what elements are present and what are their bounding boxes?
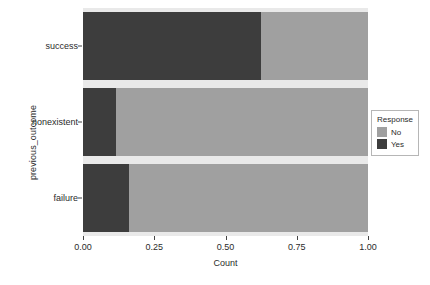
legend-item-no[interactable]: No [377,127,413,137]
y-tick-label-failure: failure [16,193,78,203]
bar-segment-nonexistent-no [116,88,368,156]
bar-chart: previous_outcome successnonexistentfailu… [0,0,430,285]
plot-panel [83,8,368,236]
x-tick-mark-0.00 [83,236,84,240]
y-tick-mark-nonexistent [78,122,82,123]
x-tick-label-1.00: 1.00 [359,242,377,252]
x-tick-label-0.75: 0.75 [288,242,306,252]
x-tick-label-0.00: 0.00 [74,242,92,252]
y-tick-label-nonexistent: nonexistent [16,117,78,127]
bar-nonexistent [83,88,368,156]
x-tick-label-0.25: 0.25 [145,242,163,252]
bar-segment-success-yes [83,12,261,80]
y-axis-tick-area: successnonexistentfailure [16,0,78,285]
legend-title: Response [377,115,413,124]
legend: Response NoYes [371,110,419,156]
legend-label-yes: Yes [391,140,404,149]
x-tick-mark-0.75 [297,236,298,240]
bar-segment-failure-no [129,164,368,232]
bar-success [83,12,368,80]
x-tick-mark-1.00 [368,236,369,240]
legend-item-yes[interactable]: Yes [377,139,413,149]
bar-failure [83,164,368,232]
legend-label-no: No [391,128,401,137]
x-axis-title: Count [83,258,368,268]
legend-items: NoYes [377,127,413,149]
y-tick-label-success: success [16,41,78,51]
bar-segment-nonexistent-yes [83,88,116,156]
bar-segment-success-no [261,12,368,80]
bar-segment-failure-yes [83,164,129,232]
x-tick-mark-0.25 [154,236,155,240]
x-tick-label-0.50: 0.50 [217,242,235,252]
legend-swatch-no [377,127,387,137]
legend-swatch-yes [377,139,387,149]
y-tick-mark-success [78,46,82,47]
y-tick-mark-failure [78,198,82,199]
x-tick-mark-0.50 [226,236,227,240]
